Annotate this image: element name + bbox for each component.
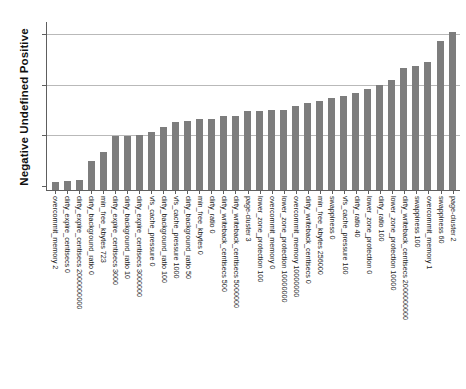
- bar: [268, 110, 275, 190]
- x-axis-label: dirty_ratio 0: [208, 196, 216, 233]
- x-axis-tick-slot: [423, 190, 435, 194]
- x-axis-label: dirty_expire_centisecs 0: [63, 196, 71, 273]
- x-axis-label-slot: dirty_expire_centisecs 2000000000: [73, 196, 85, 386]
- x-axis-label: min_free_kbytes 723: [99, 196, 107, 263]
- bar-slot: [109, 22, 121, 190]
- x-axis-tick-slot: [447, 190, 459, 194]
- bar-slot: [157, 22, 169, 190]
- bar: [437, 41, 444, 190]
- bar: [88, 161, 95, 190]
- x-axis-label: dirty_writeback_centisecs 2000000000: [401, 196, 409, 320]
- x-axis-label-slot: lower_zone_protection 100: [254, 196, 266, 386]
- x-axis-tick: [175, 190, 176, 194]
- x-axis-tick-slot: [170, 190, 182, 194]
- bar: [76, 180, 83, 190]
- x-axis-label-slot: vfs_cache_pressure 100: [339, 196, 351, 386]
- x-axis-tick-slot: [206, 190, 218, 194]
- bar: [232, 116, 239, 190]
- x-axis-label-slot: page-cluster 2: [447, 196, 459, 386]
- x-axis-tick: [163, 190, 164, 194]
- x-axis-label: dirty_background_ratio 100: [160, 196, 168, 283]
- bar-slot: [338, 22, 350, 190]
- bar: [424, 62, 431, 190]
- x-axis-tick: [356, 190, 357, 194]
- x-axis-tick: [235, 190, 236, 194]
- x-axis-label-slot: page-cluster 3: [242, 196, 254, 386]
- x-axis-tick: [139, 190, 140, 194]
- x-axis-label-slot: lower_zone_protection 0: [363, 196, 375, 386]
- x-axis-tick-slot: [411, 190, 423, 194]
- x-axis-label: overcommit_memory 1: [425, 196, 433, 269]
- x-axis-label-slot: dirty_background_ratio 100: [158, 196, 170, 386]
- x-axis-tick-slot: [49, 190, 61, 194]
- x-axis-label: vfs_cache_pressure 0: [148, 196, 156, 266]
- bar: [412, 66, 419, 190]
- bar-slot: [374, 22, 386, 190]
- x-axis-tick: [392, 190, 393, 194]
- plot-area: [46, 22, 460, 190]
- x-axis-tick-slot: [146, 190, 158, 194]
- x-axis-label: dirty_writeback_centisecs 0: [304, 196, 312, 284]
- x-axis-tick: [260, 190, 261, 194]
- x-axis-label-slot: dirty_expire_centisecs 3000: [109, 196, 121, 386]
- bar-slot: [422, 22, 434, 190]
- x-axis-label-slot: lower_zone_protection 10000: [387, 196, 399, 386]
- bar: [148, 132, 155, 190]
- x-axis-label-slot: dirty_ratio 40: [351, 196, 363, 386]
- x-axis-label-slot: dirty_writeback_centisecs 500: [218, 196, 230, 386]
- x-axis-tick: [428, 190, 429, 194]
- bar-slot: [254, 22, 266, 190]
- x-axis-tick: [103, 190, 104, 194]
- bar-slot: [133, 22, 145, 190]
- x-axis-tick-slot: [351, 190, 363, 194]
- x-axis-label-slot: swappiness 100: [411, 196, 423, 386]
- x-axis-tick: [127, 190, 128, 194]
- x-axis-tick: [151, 190, 152, 194]
- x-axis-tick-slot: [266, 190, 278, 194]
- x-axis-tick-slot: [314, 190, 326, 194]
- x-axis-label-slot: overcommit_memory 0: [266, 196, 278, 386]
- bar-slot: [73, 22, 85, 190]
- x-axis-labels: overcommit_memory 2dirty_expire_centisec…: [47, 196, 461, 386]
- x-axis-label: vfs_cache_pressure 1000: [172, 196, 180, 278]
- bar-slot: [386, 22, 398, 190]
- x-axis-label-slot: dirty_background_ratio 50: [182, 196, 194, 386]
- x-axis-label: dirty_ratio 40: [353, 196, 361, 237]
- x-axis-label: dirty_expire_centisecs 3000000: [135, 196, 143, 297]
- bar: [160, 127, 167, 190]
- bar-slot: [290, 22, 302, 190]
- bar: [64, 181, 71, 190]
- bar-slot: [169, 22, 181, 190]
- x-axis-tick: [453, 190, 454, 194]
- x-axis-label: min_free_kbytes 0: [196, 196, 204, 255]
- x-axis-tick-slot: [182, 190, 194, 194]
- x-axis-label-slot: dirty_writeback_centisecs 5000000: [230, 196, 242, 386]
- bar: [244, 111, 251, 190]
- bar-slot: [85, 22, 97, 190]
- x-axis-tick-slot: [121, 190, 133, 194]
- bar: [256, 111, 263, 190]
- x-axis-label: dirty_background_ratio 0: [87, 196, 95, 275]
- x-axis-tick: [404, 190, 405, 194]
- x-axis-label: dirty_writeback_centisecs 500: [220, 196, 228, 292]
- x-axis-tick-slot: [73, 190, 85, 194]
- x-axis-label: swappiness 60: [437, 196, 445, 244]
- x-axis-tick: [441, 190, 442, 194]
- bar-slot: [398, 22, 410, 190]
- bar-slot: [229, 22, 241, 190]
- x-axis-tick-slot: [97, 190, 109, 194]
- x-axis-label-slot: overcommit_memory 10000000: [290, 196, 302, 386]
- bar-slot: [193, 22, 205, 190]
- x-axis-tick: [187, 190, 188, 194]
- x-axis-label: min_free_kbytes 256000: [316, 196, 324, 275]
- x-axis-tick: [199, 190, 200, 194]
- x-axis-label: dirty_expire_centisecs 2000000000: [75, 196, 83, 309]
- x-axis-tick-slot: [61, 190, 73, 194]
- x-axis-label: lower_zone_protection 10000: [389, 196, 397, 290]
- bar: [100, 152, 107, 190]
- bar-slot: [205, 22, 217, 190]
- bar-slot: [145, 22, 157, 190]
- x-axis-label: vfs_cache_pressure 100: [341, 196, 349, 274]
- x-axis-tick: [211, 190, 212, 194]
- x-axis-label: page-cluster 2: [449, 196, 457, 242]
